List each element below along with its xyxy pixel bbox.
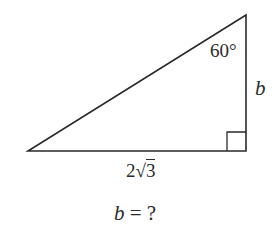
radicand: 3 [146,159,156,180]
radical-symbol: √ [136,160,146,181]
question-text: b = ? [114,203,156,224]
base-length-label: 2√3 [126,159,155,180]
angle-label: 60° [210,41,237,60]
triangle-figure [0,0,275,232]
radical: √3 [136,159,156,180]
question-equals: = ? [125,201,157,225]
side-b-label: b [255,78,266,99]
triangle-outline [28,15,246,151]
right-angle-marker [227,132,246,151]
base-coefficient: 2 [126,160,136,181]
question-variable: b [114,201,125,225]
